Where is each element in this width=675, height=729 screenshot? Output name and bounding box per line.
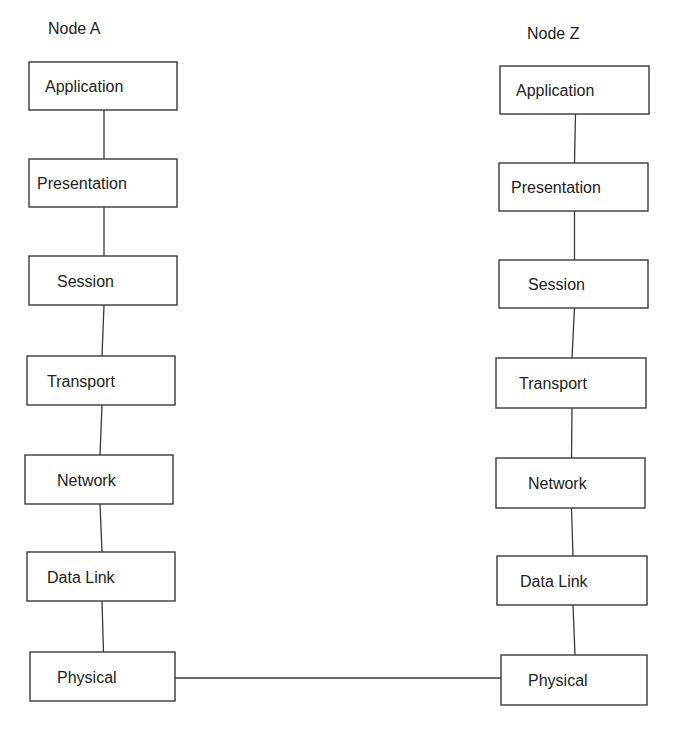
node-a-connector-data-link-to-physical <box>102 601 104 652</box>
node-z-layer-session: Session <box>499 260 648 308</box>
layer-label: Presentation <box>37 175 127 192</box>
layer-label: Data Link <box>520 573 589 590</box>
node-a-layer-session: Session <box>29 256 177 305</box>
node-z-layer-network: Network <box>496 458 645 508</box>
node-z-connector-application-to-presentation <box>575 114 576 163</box>
layer-label: Session <box>528 276 585 293</box>
node-z-layer-data-link: Data Link <box>497 556 647 605</box>
node-a-layer-application: Application <box>29 62 177 110</box>
layer-label: Physical <box>528 672 588 689</box>
layer-label: Session <box>57 273 114 290</box>
node-a-layer-network: Network <box>25 455 173 504</box>
node-a-stack: Node A ApplicationPresentationSessionTra… <box>25 20 177 701</box>
node-z-layer-physical: Physical <box>501 655 647 705</box>
node-a-connector-network-to-data-link <box>100 504 102 552</box>
node-z-connector-transport-to-network <box>572 408 573 458</box>
node-a-connector-transport-to-network <box>100 405 102 455</box>
node-a-connector-session-to-transport <box>102 305 104 356</box>
layer-label: Network <box>57 472 117 489</box>
osi-diagram: Node A ApplicationPresentationSessionTra… <box>0 0 675 729</box>
layer-label: Application <box>45 78 123 95</box>
node-a-layer-physical: Physical <box>30 652 175 701</box>
layer-label: Transport <box>47 373 115 390</box>
node-a-title: Node A <box>48 20 101 37</box>
node-z-layer-application: Application <box>500 66 649 114</box>
node-z-connector-data-link-to-physical <box>573 605 575 655</box>
layer-label: Data Link <box>47 569 116 586</box>
layer-label: Network <box>528 475 588 492</box>
node-a-layer-transport: Transport <box>27 356 175 405</box>
node-a-layer-presentation: Presentation <box>29 159 177 207</box>
layer-label: Transport <box>519 375 587 392</box>
layer-label: Physical <box>57 669 117 686</box>
layer-label: Presentation <box>511 179 601 196</box>
node-z-title: Node Z <box>527 25 580 42</box>
layer-label: Application <box>516 82 594 99</box>
node-z-connector-session-to-transport <box>572 308 575 358</box>
node-z-layer-presentation: Presentation <box>499 163 648 211</box>
node-z-stack: Node Z ApplicationPresentationSessionTra… <box>496 25 649 705</box>
node-z-layer-transport: Transport <box>496 358 646 408</box>
node-z-connector-network-to-data-link <box>572 508 574 556</box>
node-a-layer-data-link: Data Link <box>27 552 175 601</box>
